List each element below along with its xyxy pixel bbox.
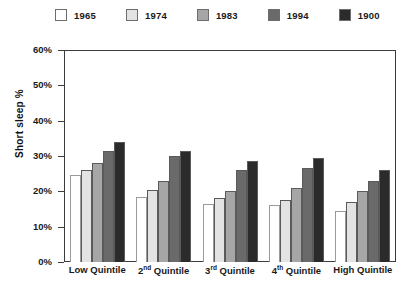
bar-groups xyxy=(64,50,396,262)
bar-group xyxy=(330,50,396,262)
bar xyxy=(70,175,81,262)
x-axis-category-label: Low Quintile xyxy=(64,264,130,276)
bar xyxy=(169,156,180,262)
y-axis-tick-label: 50% xyxy=(0,79,52,90)
bar xyxy=(357,191,368,262)
y-axis-tick-label: 10% xyxy=(0,221,52,232)
bar-group xyxy=(197,50,263,262)
y-axis-tick-label: 20% xyxy=(0,185,52,196)
bar-chart: 19651974198319941900 Short sleep % 60%50… xyxy=(0,0,410,292)
bar-group xyxy=(64,50,130,262)
x-axis-category-label: 4th Quintile xyxy=(263,264,329,276)
bar xyxy=(280,200,291,262)
chart-legend: 19651974198319941900 xyxy=(55,9,410,21)
legend-item: 1900 xyxy=(339,9,380,21)
legend-item: 1965 xyxy=(55,9,96,21)
bar xyxy=(247,161,258,262)
legend-item: 1983 xyxy=(197,9,238,21)
legend-swatch-icon xyxy=(126,9,138,21)
legend-label: 1983 xyxy=(216,10,238,21)
y-axis-tick-label: 40% xyxy=(0,115,52,126)
bar xyxy=(368,181,379,262)
x-axis-category-labels: Low Quintile2nd Quintile3rd Quintile4th … xyxy=(64,264,396,276)
bar xyxy=(147,190,158,262)
legend-item: 1994 xyxy=(268,9,309,21)
bar xyxy=(236,170,247,262)
bar xyxy=(136,197,147,262)
bar xyxy=(81,170,92,262)
y-axis-tick xyxy=(58,262,64,263)
legend-swatch-icon xyxy=(55,9,67,21)
bar xyxy=(379,170,390,262)
bar xyxy=(180,151,191,262)
bar-group xyxy=(263,50,329,262)
legend-swatch-icon xyxy=(339,9,351,21)
bar xyxy=(225,191,236,262)
bar xyxy=(313,158,324,262)
bar xyxy=(214,198,225,262)
legend-label: 1974 xyxy=(145,10,167,21)
bar xyxy=(291,188,302,262)
y-axis-tick-label: 30% xyxy=(0,150,52,161)
bar xyxy=(346,202,357,262)
x-axis-category-label: 2nd Quintile xyxy=(130,264,196,276)
bar xyxy=(302,168,313,262)
bar xyxy=(335,211,346,262)
legend-item: 1974 xyxy=(126,9,167,21)
bar xyxy=(269,205,280,262)
y-axis-tick-label: 0% xyxy=(0,256,52,267)
legend-label: 1994 xyxy=(287,10,309,21)
bar xyxy=(158,181,169,262)
bar-group xyxy=(130,50,196,262)
bar xyxy=(92,163,103,262)
bar xyxy=(103,151,114,262)
legend-label: 1965 xyxy=(74,10,96,21)
legend-swatch-icon xyxy=(268,9,280,21)
x-axis-category-label: High Quintile xyxy=(330,264,396,276)
bar xyxy=(203,204,214,262)
x-axis-category-label: 3rd Quintile xyxy=(197,264,263,276)
y-axis-tick-label: 60% xyxy=(0,44,52,55)
legend-swatch-icon xyxy=(197,9,209,21)
bar xyxy=(114,142,125,262)
legend-label: 1900 xyxy=(358,10,380,21)
